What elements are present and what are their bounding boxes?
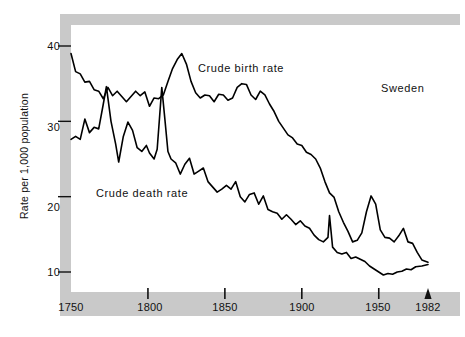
y-tick-label-20: 20 — [34, 201, 60, 213]
series-label-crude-birth-rate: Crude birth rate — [198, 62, 284, 74]
y-tick-label-40: 40 — [34, 40, 60, 52]
chart-canvas — [0, 0, 465, 337]
x-tick-label-1900: 1900 — [279, 301, 325, 313]
country-annotation-sweden: Sweden — [381, 82, 424, 94]
chart-figure: Rate per 1,000 population 40 30 20 10 17… — [0, 0, 465, 337]
y-axis-label: Rate per 1,000 population — [18, 66, 30, 246]
series-line-crude-birth-rate — [71, 54, 428, 263]
y-tick-label-30: 30 — [34, 121, 60, 133]
x-tick-label-1982: 1982 — [405, 301, 451, 313]
y-tick-label-10: 10 — [34, 266, 60, 278]
x-tick-label-1800: 1800 — [127, 301, 173, 313]
x-tick-label-1850: 1850 — [202, 301, 248, 313]
series-line-crude-death-rate — [71, 87, 428, 275]
x-tick-label-1950: 1950 — [355, 301, 401, 313]
series-label-crude-death-rate: Crude death rate — [96, 187, 188, 199]
x-tick-label-1750: 1750 — [48, 301, 94, 313]
x-axis-end-arrow-icon — [424, 288, 431, 299]
series-layer — [71, 54, 428, 275]
